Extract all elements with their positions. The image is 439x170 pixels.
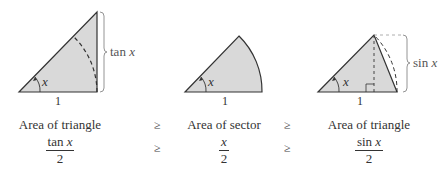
tan-label: tan x bbox=[110, 44, 135, 60]
relation-1-top: ≥ bbox=[154, 118, 161, 133]
formula-x: x 2 bbox=[194, 135, 254, 166]
tan-brace bbox=[100, 12, 107, 92]
inner-triangle-shape bbox=[318, 35, 397, 92]
sin-brace bbox=[403, 35, 410, 92]
angle-label-1: x bbox=[42, 74, 48, 90]
sin-label: sin x bbox=[413, 55, 437, 71]
base-label-2: 1 bbox=[222, 94, 228, 109]
formula-sin: sin x 2 bbox=[339, 135, 399, 166]
caption-sector: Area of sector bbox=[164, 117, 284, 133]
relation-2-bottom: ≥ bbox=[284, 141, 291, 156]
caption-outer-triangle: Area of triangle bbox=[0, 117, 120, 133]
angle-label-3: x bbox=[343, 74, 349, 90]
formula-tan: tan x 2 bbox=[30, 135, 90, 166]
relation-2-top: ≥ bbox=[284, 118, 291, 133]
sector-shape bbox=[185, 36, 262, 92]
base-label-3: 1 bbox=[357, 94, 363, 109]
angle-label-2: x bbox=[208, 74, 214, 90]
outer-triangle-figure bbox=[19, 12, 107, 92]
sector-figure bbox=[185, 36, 262, 92]
inner-triangle-figure bbox=[318, 35, 410, 92]
relation-1-bottom: ≥ bbox=[154, 141, 161, 156]
caption-inner-triangle: Area of triangle bbox=[309, 117, 429, 133]
base-label-1: 1 bbox=[55, 94, 61, 109]
